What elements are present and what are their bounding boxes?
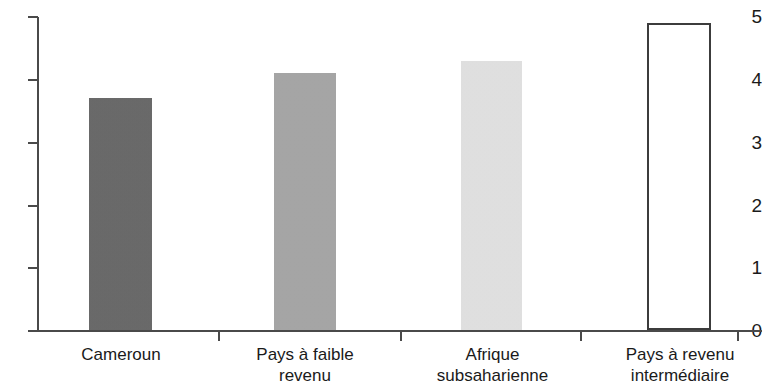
- x-axis-tick-3: [580, 332, 582, 341]
- plot-area: 5 4 3 2 1 0 Cameroun Pays à faible reven…: [0, 0, 762, 390]
- y-axis-tick-1: [28, 267, 38, 269]
- x-axis-category-label-pays-a-faible-revenu: Pays à faible revenu: [229, 344, 381, 386]
- y-axis-tick-3: [28, 142, 38, 144]
- y-axis-tick-5: [28, 16, 38, 18]
- bar-cameroun: [89, 98, 152, 330]
- y-axis-tick-4: [28, 79, 38, 81]
- y-axis-label-3: 3: [740, 133, 762, 152]
- y-axis-line: [37, 17, 39, 331]
- y-axis-label-2: 2: [740, 196, 762, 215]
- y-axis-tick-2: [28, 205, 38, 207]
- bar-afrique-subsaharienne: [461, 61, 522, 330]
- y-axis-label-1: 1: [740, 258, 762, 277]
- bar-pays-a-faible-revenu: [274, 73, 336, 330]
- x-axis-tick-4: [737, 332, 739, 341]
- x-axis-category-label-afrique-subsaharienne: Afrique subsaharienne: [415, 344, 570, 386]
- x-axis-category-label-cameroun: Cameroun: [45, 344, 197, 365]
- y-axis-label-4: 4: [740, 70, 762, 89]
- x-axis-category-label-pays-a-revenu-intermediaire: Pays à revenu intermédiaire: [600, 344, 760, 386]
- x-axis-tick-1: [218, 332, 220, 341]
- bar-pays-a-revenu-intermediaire: [647, 23, 711, 330]
- y-axis-label-5: 5: [740, 7, 762, 26]
- x-axis-tick-2: [400, 332, 402, 341]
- bar-chart: 5 4 3 2 1 0 Cameroun Pays à faible reven…: [0, 0, 762, 390]
- x-axis-line: [30, 330, 762, 332]
